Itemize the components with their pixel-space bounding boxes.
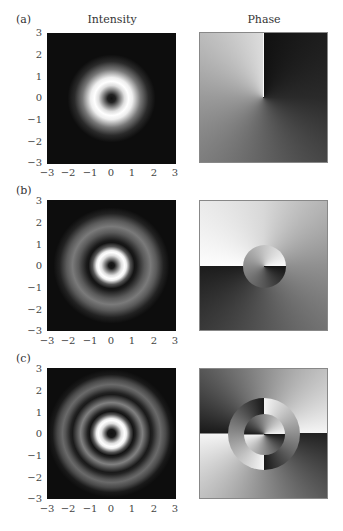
intensity-plot-b — [47, 200, 176, 331]
row-label-a: (a) — [16, 13, 31, 26]
column-title-intensity: Intensity — [47, 13, 177, 26]
phase-inner-disk-c — [244, 414, 285, 455]
phase-plot-a — [199, 32, 328, 163]
phase-plot-c — [199, 368, 328, 499]
intensity-plot-a — [47, 33, 176, 164]
column-title-phase: Phase — [199, 13, 329, 26]
figure: Intensity Phase (a) 3 2 1 0 −1 −2 −3 −3 … — [0, 0, 343, 531]
phase-inner-disk-b — [243, 245, 286, 288]
phase-plot-b — [199, 200, 328, 331]
intensity-plot-c — [47, 368, 176, 499]
